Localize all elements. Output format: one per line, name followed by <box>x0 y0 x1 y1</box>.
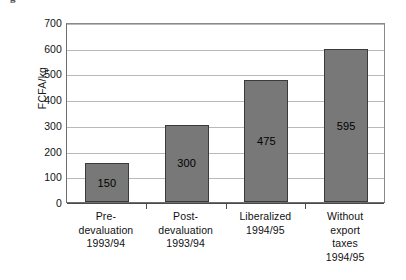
x-category-label-line: 1994/95 <box>226 224 306 238</box>
y-tick-label: 0 <box>26 198 62 209</box>
x-tick-mark <box>146 203 147 209</box>
plot-area: 150300475595 <box>66 23 385 203</box>
bar-series: 150300475595 <box>67 24 384 202</box>
x-category-label: Pre-devaluation1993/94 <box>66 210 146 251</box>
bar-value-label: 300 <box>166 157 208 169</box>
x-category-label-line: taxes <box>305 237 385 251</box>
x-category-label-line: Liberalized <box>226 210 306 224</box>
x-category-label-line: 1993/94 <box>146 237 226 251</box>
x-category-label-line: Without <box>305 210 385 224</box>
bar[interactable]: 300 <box>165 125 209 202</box>
x-tick-mark <box>226 203 227 209</box>
x-category-label-line: Post- <box>146 210 226 224</box>
cut-caption-glyph: g <box>10 0 16 3</box>
bar-value-label: 475 <box>245 135 287 147</box>
x-category-label: Liberalized1994/95 <box>226 210 306 237</box>
x-category-label: Post-devaluation1993/94 <box>146 210 226 251</box>
bar[interactable]: 475 <box>244 80 288 202</box>
y-tick-label: 700 <box>26 18 62 29</box>
x-category-label-line: devaluation <box>66 224 146 238</box>
x-category-label-line: devaluation <box>146 224 226 238</box>
y-tick-label: 500 <box>26 69 62 80</box>
y-axis-tick-labels: 7006005004003002001000 <box>26 23 62 203</box>
y-tick-label: 400 <box>26 95 62 106</box>
x-category-label-line: Pre- <box>66 210 146 224</box>
bar-value-label: 150 <box>86 177 128 189</box>
x-axis-category-labels: Pre-devaluation1993/94Post-devaluation19… <box>66 210 385 278</box>
bar[interactable]: 595 <box>324 49 368 202</box>
y-tick-label: 300 <box>26 121 62 132</box>
x-category-label-line: 1994/95 <box>305 251 385 265</box>
y-tick-label: 100 <box>26 172 62 183</box>
chart-screenshot: g FCFA/kg 7006005004003002001000 1503004… <box>0 0 406 280</box>
y-tick-label: 200 <box>26 146 62 157</box>
bar-value-label: 595 <box>325 120 367 132</box>
bar[interactable]: 150 <box>85 163 129 202</box>
x-category-label-line: export <box>305 224 385 238</box>
x-category-label: Withoutexporttaxes1994/95 <box>305 210 385 264</box>
x-tick-mark <box>305 203 306 209</box>
x-category-label-line: 1993/94 <box>66 237 146 251</box>
y-tick-label: 600 <box>26 43 62 54</box>
